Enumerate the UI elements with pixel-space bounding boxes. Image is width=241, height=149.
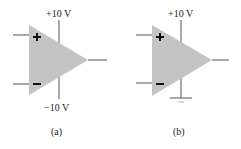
caption-a: (a) bbox=[51, 126, 62, 138]
negative-supply-label-a: −10 V bbox=[44, 102, 70, 113]
ground-icon bbox=[170, 98, 192, 102]
positive-supply-label-b: +10 V bbox=[168, 8, 194, 19]
panel-b: +10 V (b) bbox=[136, 8, 229, 138]
caption-b: (b) bbox=[173, 126, 185, 138]
op-amp-diagram: +10 V −10 V (a) +10 V (b) bbox=[0, 0, 241, 149]
positive-supply-label-a: +10 V bbox=[46, 8, 72, 19]
panel-a: +10 V −10 V (a) bbox=[13, 8, 107, 138]
